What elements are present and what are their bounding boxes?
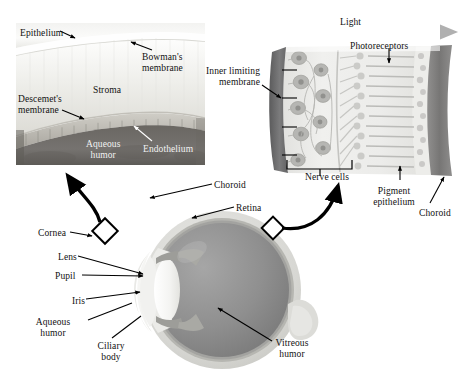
- label-descemets-membrane: Descemet's membrane: [18, 94, 62, 115]
- leader-choroid-retina: [430, 177, 444, 203]
- callout-curve-cornea: [68, 176, 100, 222]
- figure-root: Epithelium Bowman's membrane Stroma Desc…: [0, 0, 465, 382]
- label-aqueous-humor-eye: Aqueous humor: [24, 317, 82, 338]
- label-aqueous-humor-inset: Aqueous humor: [86, 139, 120, 160]
- label-ciliary-body: Ciliary body: [90, 341, 132, 362]
- lens: [154, 259, 180, 321]
- leader-lens: [78, 256, 143, 274]
- label-epithelium: Epithelium: [20, 28, 63, 39]
- label-stroma: Stroma: [93, 85, 121, 96]
- callout-curve-retina: [282, 186, 338, 229]
- leader-choroid: [150, 184, 212, 198]
- label-light: Light: [340, 17, 361, 28]
- label-pupil: Pupil: [55, 271, 76, 282]
- leader-iris: [86, 292, 140, 299]
- label-vitreous-humor: Vitreous humor: [266, 338, 318, 359]
- callout-box-cornea: [92, 218, 117, 243]
- label-nerve-cells: Nerve cells: [305, 172, 349, 183]
- leader-pupil: [82, 275, 143, 276]
- label-choroid: Choroid: [214, 180, 246, 191]
- label-iris: Iris: [72, 296, 85, 307]
- leader-ciliary-body: [112, 316, 141, 338]
- leader-aqueous-humor-eye: [88, 303, 132, 320]
- label-cornea: Cornea: [38, 228, 66, 239]
- retina-inset-panel: [269, 45, 452, 176]
- label-endothelium: Endothelium: [143, 144, 193, 155]
- label-lens: Lens: [58, 252, 77, 263]
- label-photoreceptors: Photoreceptors: [350, 41, 408, 52]
- label-bowmans-membrane: Bowman's membrane: [142, 52, 183, 73]
- label-choroid-retina: Choroid: [419, 208, 451, 219]
- label-retina: Retina: [236, 203, 261, 214]
- label-pigment-epithelium: Pigment epithelium: [372, 186, 416, 207]
- leader-cornea: [70, 232, 92, 236]
- label-inner-limiting-membrane: Inner limiting membrane: [198, 66, 260, 87]
